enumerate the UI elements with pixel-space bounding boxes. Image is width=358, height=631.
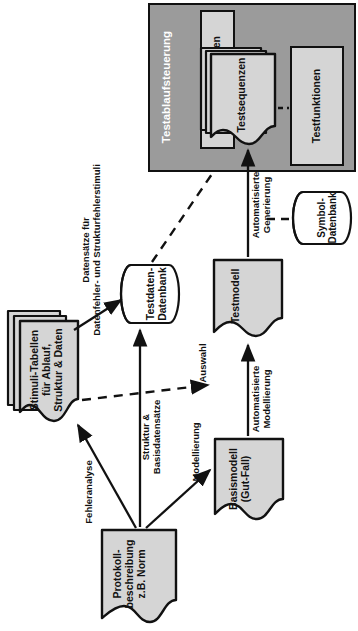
node-testsequenzen-label: Testsequenzen [236, 57, 248, 132]
node-testfunktionen-label: Testfunktionen [311, 69, 323, 143]
edge-testdaten-zu-testablaufsteuerung [152, 174, 212, 262]
edge-label-modellierung: Modellierung [191, 422, 202, 481]
edge-label-auswahl: Auswahl [198, 343, 209, 382]
node-basismodell-label: Basismodell (Gut-Fall) [228, 448, 252, 510]
edge-label-datensaetze: Datensätze für Datenfehler- und Struktur… [81, 164, 102, 336]
edge-label-automatisierte-modellierung: Automatisierte Modellierung [251, 366, 272, 433]
node-testmodell-label: Testmodell [230, 269, 242, 324]
node-testmodell [212, 258, 284, 338]
node-testablaufsteuerung-label: Testablaufsteuerung [160, 31, 173, 143]
edge-label-automatisierte-generierung: Automatisierte Generierung [251, 172, 272, 239]
edge-auswahl [82, 385, 208, 400]
node-symbol-datenbank-label: Symbol- Datenbank [316, 192, 338, 243]
edge-label-fehleranalyse: Fehleranalyse [84, 460, 95, 523]
diagram-canvas: Testablaufsteuerung Laufzeitvariablen Te… [0, 0, 358, 631]
edge-label-struktur-basisdatensaetze: Struktur & Basisdatensätze [141, 400, 162, 474]
node-stimuli-tabellen-label: Stimuli-Tabellen für Ablauf, Struktur & … [29, 328, 64, 411]
node-testdaten-datenbank-label: Testdaten- Datenbank [145, 267, 169, 321]
node-protokollbeschreibung-label: Protokoll- beschreibung z.B. Norm [112, 540, 147, 609]
